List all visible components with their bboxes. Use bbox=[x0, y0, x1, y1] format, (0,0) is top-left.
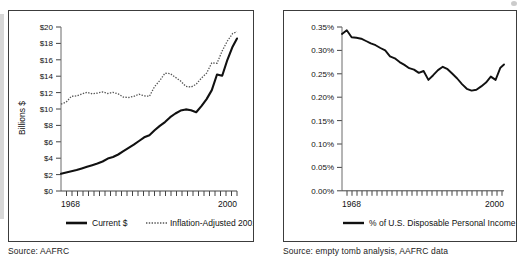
scan-artifact-dot bbox=[511, 1, 517, 6]
left-chart-panel: $20 $18 $16 $14 $12 $10 $8 $6 $4 $2 $0 bbox=[0, 0, 263, 261]
y-tick-label: 0.20% bbox=[311, 93, 334, 102]
y-tick-label: $4 bbox=[44, 154, 53, 163]
page-edge-shading bbox=[0, 14, 4, 219]
y-tick-label: $6 bbox=[44, 138, 53, 147]
y-tick-label: 0.00% bbox=[311, 187, 334, 196]
y-tick-label: 0.05% bbox=[311, 163, 334, 172]
left-chart-frame: $20 $18 $16 $14 $12 $10 $8 $6 $4 $2 $0 bbox=[8, 10, 254, 242]
y-tick-label: 0.35% bbox=[311, 23, 334, 32]
legend-label-inflation-adjusted: Inflation-Adjusted 2001 $ bbox=[170, 218, 253, 228]
y-tick-label: $0 bbox=[44, 187, 53, 196]
series-current-dollars bbox=[61, 39, 237, 174]
y-tick-label: 0.10% bbox=[311, 140, 334, 149]
left-y-axis-title: Billions $ bbox=[17, 101, 27, 135]
y-tick-label: $16 bbox=[40, 56, 54, 65]
legend-label-current-dollars: Current $ bbox=[92, 218, 128, 228]
x-tick-label-start: 1968 bbox=[61, 199, 80, 209]
y-tick-label: 0.15% bbox=[311, 117, 334, 126]
y-tick-label: $8 bbox=[44, 121, 53, 130]
y-tick-label: $10 bbox=[40, 105, 54, 114]
giving-percent-chart: 0.35% 0.30% 0.25% 0.20% 0.15% 0.10% 0.05… bbox=[284, 11, 516, 241]
y-axis-right: 0.35% 0.30% 0.25% 0.20% 0.15% 0.10% 0.05… bbox=[311, 23, 342, 196]
y-tick-label: 0.30% bbox=[311, 46, 334, 55]
series-pct-disposable-income bbox=[342, 30, 504, 90]
y-tick-label: $14 bbox=[40, 72, 54, 81]
x-tick-label-end: 2000 bbox=[485, 199, 504, 209]
x-tick-label-end: 2000 bbox=[218, 199, 237, 209]
y-tick-label: $12 bbox=[40, 89, 54, 98]
right-source-note: Source: empty tomb analysis, AAFRC data bbox=[283, 246, 448, 256]
y-axis-left: $20 $18 $16 $14 $12 $10 $8 $6 $4 $2 $0 bbox=[40, 23, 61, 196]
x-axis-right: 1968 2000 bbox=[342, 191, 504, 209]
x-axis-left: 1968 2000 bbox=[61, 191, 237, 209]
x-tick-label-start: 1968 bbox=[342, 199, 361, 209]
y-tick-label: 0.25% bbox=[311, 70, 334, 79]
left-chart-legend: Current $ Inflation-Adjusted 2001 $ bbox=[66, 218, 253, 228]
left-source-note: Source: AAFRC bbox=[8, 246, 69, 256]
right-chart-legend: % of U.S. Disposable Personal Income bbox=[343, 218, 516, 228]
legend-label-pct-disposable-income: % of U.S. Disposable Personal Income bbox=[369, 218, 516, 228]
right-chart-panel: 0.35% 0.30% 0.25% 0.20% 0.15% 0.10% 0.05… bbox=[263, 0, 526, 261]
y-tick-label: $18 bbox=[40, 39, 54, 48]
y-tick-label: $20 bbox=[40, 23, 54, 32]
giving-dollars-chart: $20 $18 $16 $14 $12 $10 $8 $6 $4 $2 $0 bbox=[9, 11, 253, 241]
y-tick-label: $2 bbox=[44, 171, 53, 180]
right-chart-frame: 0.35% 0.30% 0.25% 0.20% 0.15% 0.10% 0.05… bbox=[283, 10, 517, 242]
